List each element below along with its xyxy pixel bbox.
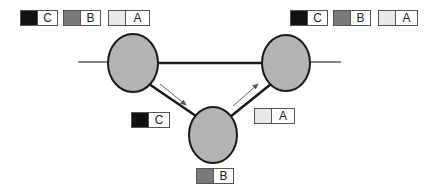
badge-label: C xyxy=(149,113,169,127)
badge-label: A xyxy=(272,109,294,123)
badge-top-left-a: A xyxy=(108,10,150,26)
swatch-a xyxy=(109,11,126,25)
badge-top-right-a: A xyxy=(378,10,418,26)
badge-label: B xyxy=(351,11,370,25)
swatch-a xyxy=(255,109,272,123)
swatch-b xyxy=(334,11,351,25)
badge-top-right-c: C xyxy=(290,10,328,26)
badge-top-left-b: B xyxy=(63,10,101,26)
node-bottom xyxy=(189,107,237,163)
badge-bottom-b: B xyxy=(196,168,234,184)
swatch-b xyxy=(64,11,81,25)
badge-label: A xyxy=(126,11,149,25)
badge-label: B xyxy=(214,169,233,183)
badge-label: C xyxy=(38,11,57,25)
badge-middle-left-c: C xyxy=(131,112,170,128)
badge-label: B xyxy=(81,11,100,25)
badge-top-right-b: B xyxy=(333,10,371,26)
node-left xyxy=(108,34,158,92)
badge-middle-right-a: A xyxy=(254,108,295,124)
network-diagram xyxy=(0,0,437,196)
swatch-b xyxy=(197,169,214,183)
swatch-a xyxy=(379,11,396,25)
node-right xyxy=(262,35,310,91)
swatch-c xyxy=(291,11,308,25)
badge-label: C xyxy=(308,11,327,25)
badge-label: A xyxy=(396,11,417,25)
badge-top-left-c: C xyxy=(20,10,58,26)
swatch-c xyxy=(132,113,149,127)
swatch-c xyxy=(21,11,38,25)
flow-arrow-bottom-to-right xyxy=(233,84,258,106)
